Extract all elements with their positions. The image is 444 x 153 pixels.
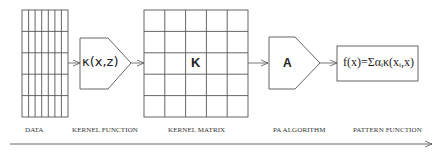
label-pa-algorithm: PA ALGORITHM	[273, 126, 325, 134]
label-data: DATA	[25, 126, 44, 134]
kernel-function-symbol: κ(x,z)	[82, 54, 118, 69]
label-kernel-matrix: KERNEL MATRIX	[168, 126, 225, 134]
data-grid	[22, 10, 68, 117]
pattern-function-symbol: f(x)=Σαᵢκ(xᵢ,x)	[343, 55, 414, 70]
pa-algorithm-shape	[269, 37, 320, 89]
label-pattern-function: PATTERN FUNCTION	[353, 126, 422, 134]
pa-algorithm-symbol: A	[283, 56, 292, 70]
kernel-matrix-symbol: K	[191, 55, 200, 70]
label-kernel-function: KERNEL FUNCTION	[72, 126, 138, 134]
